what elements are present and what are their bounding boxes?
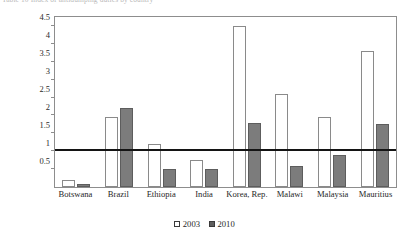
legend-label: 2010 [218,219,235,229]
y-axis-tick-label: 0.5 [39,156,50,165]
x-axis-labels: BotswanaBrazilEthiopiaIndiaKorea, Rep.Ma… [54,190,397,199]
x-axis-label: Malawi [268,190,311,199]
filled-square-icon [209,221,215,227]
bar-group [353,17,396,187]
bar-pair [268,17,311,187]
bar-pair [226,17,269,187]
bar-2010[interactable] [205,169,218,187]
bar-pair [140,17,183,187]
x-axis-label: Korea, Rep. [226,190,269,199]
bar-2003[interactable] [361,51,374,187]
bar-2003[interactable] [190,160,203,187]
open-square-icon [174,221,180,227]
y-axis-tick-label: 2 [46,103,50,112]
bar-2010[interactable] [120,108,133,187]
x-axis-label: Malaysia [311,190,354,199]
chart-legend: 20032010 [0,219,409,229]
y-axis-tick-label: 1.5 [39,121,50,130]
bar-2003[interactable] [275,94,288,187]
x-axis-label: Mauritius [354,190,397,199]
legend-entry[interactable]: 2010 [209,219,235,229]
x-axis-label: Ethiopia [140,190,183,199]
reference-line [55,149,396,151]
bar-group [311,17,354,187]
y-axis-tick-label: 3.5 [39,49,50,58]
x-axis-label: Brazil [97,190,140,199]
bar-pair [55,17,98,187]
bar-pair [353,17,396,187]
bar-groups [55,17,396,187]
bar-group [226,17,269,187]
legend-entry[interactable]: 2003 [174,219,200,229]
bar-pair [98,17,141,187]
bar-group [140,17,183,187]
x-axis-label: India [183,190,226,199]
bar-group [268,17,311,187]
bar-group [98,17,141,187]
bar-2010[interactable] [333,155,346,187]
y-axis-tick-label: 1 [46,138,50,147]
bar-2003[interactable] [105,117,118,187]
bar-pair [183,17,226,187]
bar-group [55,17,98,187]
plot-area: 0.511.522.533.544.5 [55,17,396,187]
bar-2010[interactable] [376,124,389,187]
bar-2010[interactable] [77,184,90,187]
bar-pair [311,17,354,187]
bar-2010[interactable] [163,169,176,187]
bar-2003[interactable] [318,117,331,187]
y-axis-tick-label: 3 [46,67,50,76]
bar-chart-figure: 0.511.522.533.544.5 BotswanaBrazilEthiop… [0,0,409,237]
y-axis-tick-label: 4.5 [39,13,50,22]
bar-2003[interactable] [62,180,75,187]
y-axis-tick-label: 2.5 [39,85,50,94]
y-axis-tick-label: 4 [46,31,50,40]
bar-2010[interactable] [290,166,303,187]
plot-frame: 0.511.522.533.544.5 [54,16,397,188]
bar-2010[interactable] [248,123,261,187]
bar-group [183,17,226,187]
bar-2003[interactable] [233,26,246,187]
legend-label: 2003 [183,219,200,229]
x-axis-label: Botswana [54,190,97,199]
